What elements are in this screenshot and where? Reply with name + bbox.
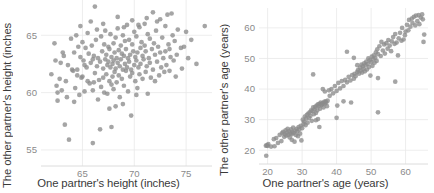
data-point bbox=[76, 44, 81, 49]
data-point bbox=[383, 51, 388, 56]
data-point bbox=[121, 33, 126, 38]
data-point bbox=[111, 87, 116, 92]
data-point bbox=[311, 72, 316, 77]
data-point bbox=[162, 70, 167, 75]
data-point bbox=[172, 39, 177, 44]
data-point bbox=[75, 73, 80, 78]
data-point bbox=[130, 71, 135, 76]
data-point bbox=[421, 40, 426, 45]
data-point bbox=[152, 41, 157, 46]
data-point bbox=[171, 58, 176, 63]
data-point bbox=[151, 67, 156, 72]
data-point bbox=[165, 12, 170, 17]
data-point bbox=[127, 59, 132, 64]
data-point bbox=[102, 42, 107, 47]
data-point bbox=[393, 79, 398, 84]
data-point bbox=[99, 85, 104, 90]
data-point bbox=[389, 49, 394, 54]
data-point bbox=[74, 33, 79, 38]
data-point bbox=[85, 31, 90, 36]
data-point bbox=[153, 52, 158, 57]
data-point bbox=[101, 21, 106, 26]
data-point bbox=[124, 47, 129, 52]
data-point bbox=[99, 34, 104, 39]
x-tick-label: 60 bbox=[400, 166, 411, 177]
data-point bbox=[80, 40, 85, 45]
data-point bbox=[135, 86, 140, 91]
data-point bbox=[115, 15, 120, 20]
data-point bbox=[420, 17, 425, 22]
data-point bbox=[400, 26, 405, 31]
data-point bbox=[106, 59, 111, 64]
data-point bbox=[154, 28, 159, 33]
y-tick-label: 60 bbox=[244, 22, 255, 33]
data-point bbox=[194, 62, 199, 67]
data-point bbox=[175, 27, 180, 32]
data-point bbox=[182, 44, 187, 49]
data-point bbox=[90, 141, 95, 146]
data-point bbox=[264, 153, 269, 158]
data-point bbox=[368, 73, 373, 78]
data-point bbox=[317, 125, 322, 130]
data-point bbox=[129, 113, 134, 118]
data-point bbox=[155, 19, 160, 24]
data-point bbox=[132, 63, 137, 68]
data-point bbox=[101, 66, 106, 71]
heights-scatter-svg: 657075556065 bbox=[0, 0, 217, 193]
data-point bbox=[401, 37, 406, 42]
data-point bbox=[100, 49, 105, 54]
data-point bbox=[147, 36, 152, 41]
data-point bbox=[341, 84, 346, 89]
data-point bbox=[164, 63, 169, 68]
data-point bbox=[93, 4, 98, 9]
y-tick-label: 50 bbox=[244, 53, 255, 64]
data-point bbox=[64, 79, 69, 84]
data-point bbox=[113, 35, 118, 40]
data-point bbox=[71, 68, 76, 73]
left-x-axis-label: One partner's height (inches) bbox=[0, 177, 217, 189]
data-point bbox=[143, 49, 148, 54]
data-point bbox=[55, 90, 60, 95]
data-point bbox=[122, 25, 127, 30]
y-tick-label: 40 bbox=[244, 83, 255, 94]
data-point bbox=[144, 16, 149, 21]
data-point bbox=[160, 35, 165, 40]
data-point bbox=[394, 40, 399, 45]
data-point bbox=[155, 59, 160, 64]
data-point bbox=[122, 54, 127, 59]
data-point bbox=[122, 83, 127, 88]
data-point bbox=[137, 72, 142, 77]
data-point bbox=[167, 47, 172, 52]
data-point bbox=[138, 62, 143, 67]
data-point bbox=[142, 43, 147, 48]
panel-heights: 657075556065 bbox=[0, 0, 217, 193]
data-point bbox=[107, 47, 112, 52]
data-point bbox=[325, 104, 330, 109]
data-point bbox=[149, 75, 154, 80]
data-point bbox=[69, 36, 74, 41]
data-point bbox=[325, 98, 330, 103]
data-point bbox=[77, 93, 82, 98]
data-point bbox=[108, 32, 113, 37]
data-point bbox=[163, 24, 168, 29]
data-point bbox=[115, 26, 120, 31]
data-point bbox=[292, 139, 297, 144]
data-point bbox=[133, 79, 138, 84]
data-point bbox=[169, 11, 174, 16]
data-point bbox=[121, 102, 126, 107]
data-point bbox=[78, 24, 83, 29]
data-point bbox=[65, 95, 70, 100]
data-point bbox=[157, 73, 162, 78]
data-point bbox=[163, 49, 168, 54]
data-point bbox=[132, 29, 137, 34]
data-point bbox=[123, 39, 128, 44]
data-point bbox=[145, 32, 150, 37]
data-point bbox=[117, 95, 122, 100]
data-point bbox=[107, 106, 112, 111]
data-point bbox=[417, 22, 422, 27]
y-tick-label: 55 bbox=[26, 144, 37, 155]
data-point bbox=[272, 144, 277, 149]
data-point bbox=[104, 72, 109, 77]
data-point bbox=[186, 56, 191, 61]
data-point bbox=[202, 24, 207, 29]
